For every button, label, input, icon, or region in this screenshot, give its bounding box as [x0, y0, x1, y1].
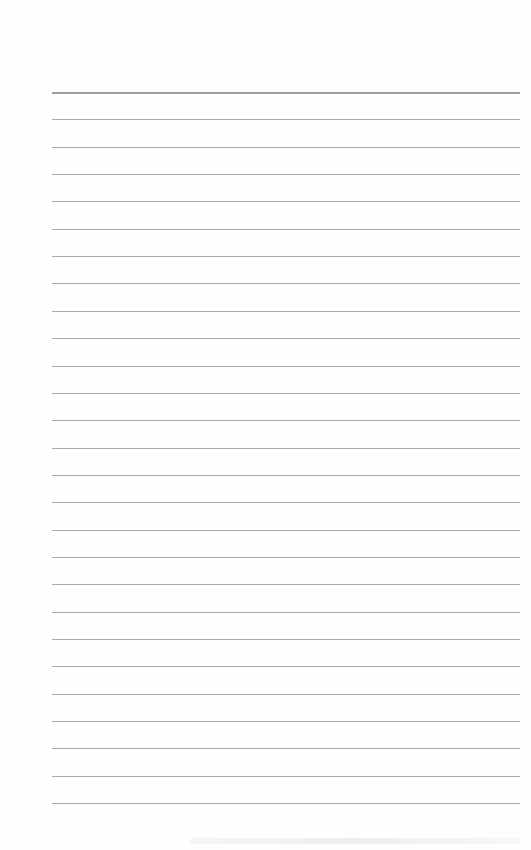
ruled-line	[52, 92, 520, 94]
ruled-line	[52, 147, 520, 148]
ruled-line	[52, 119, 520, 120]
ruled-line	[52, 721, 520, 722]
ruled-line	[52, 776, 520, 777]
ruled-line	[52, 283, 520, 284]
lined-paper-page	[0, 0, 531, 850]
faint-bleed-through	[190, 838, 520, 844]
ruled-line	[52, 229, 520, 230]
ruled-line	[52, 420, 520, 421]
ruled-line	[52, 502, 520, 503]
ruled-line	[52, 530, 520, 531]
ruled-line	[52, 557, 520, 558]
ruled-line	[52, 803, 520, 804]
ruled-line	[52, 338, 520, 339]
ruled-line	[52, 584, 520, 585]
ruled-line	[52, 201, 520, 202]
ruled-line	[52, 256, 520, 257]
ruled-line	[52, 612, 520, 613]
ruled-line	[52, 666, 520, 667]
ruled-line	[52, 366, 520, 367]
ruled-line	[52, 393, 520, 394]
ruled-line	[52, 748, 520, 749]
ruled-line	[52, 448, 520, 449]
ruled-line	[52, 694, 520, 695]
ruled-line	[52, 174, 520, 175]
ruled-line	[52, 639, 520, 640]
ruled-line	[52, 311, 520, 312]
ruled-line	[52, 475, 520, 476]
